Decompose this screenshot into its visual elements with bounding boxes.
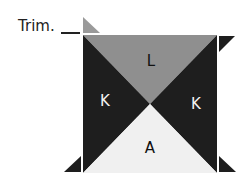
trim-triangle-bottom-right — [219, 156, 236, 172]
trim-triangle-top-left — [83, 17, 100, 33]
trim-annotation-label: Trim. — [18, 19, 55, 34]
label-A: A — [145, 141, 155, 156]
trim-leader-line — [61, 32, 80, 34]
trim-triangle-bottom-left — [64, 156, 81, 172]
label-L: L — [147, 54, 155, 69]
label-K-right: K — [191, 97, 201, 112]
quilt-block-diagram: Trim. L K K A — [0, 0, 250, 190]
label-K-left: K — [100, 94, 110, 109]
trim-triangle-top-right — [219, 36, 235, 52]
